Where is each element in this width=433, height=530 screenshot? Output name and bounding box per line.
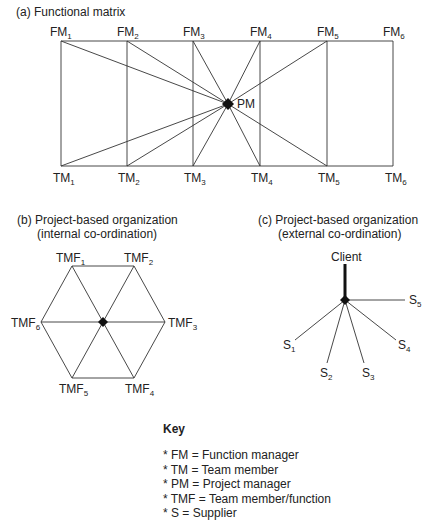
key-item-s: * S = Supplier	[163, 506, 331, 521]
tmf2-label: TMF2	[124, 251, 153, 270]
tm3-label: TM3	[184, 171, 206, 190]
fm3-label: FM3	[183, 25, 205, 44]
panel-b-title-line2: (internal co-ordination)	[37, 227, 157, 241]
s3-label: S3	[362, 366, 374, 385]
client-hub-icon	[340, 295, 350, 305]
s4-label: S4	[398, 338, 410, 357]
panel-c-title-line2: (external co-ordination)	[278, 227, 401, 241]
fm2-label: FM2	[117, 25, 139, 44]
key-list: * FM = Function manager * TM = Team memb…	[163, 448, 331, 521]
fm1-label: FM1	[50, 25, 72, 44]
key-item-tmf: * TMF = Team member/function	[163, 492, 331, 507]
key-item-tm: * TM = Team member	[163, 463, 331, 478]
hexagon-center-icon	[98, 317, 108, 327]
tm6-label: TM6	[385, 171, 407, 190]
tm1-label: TM1	[53, 171, 75, 190]
tmf3-label: TMF3	[168, 316, 197, 335]
s1-label: S1	[283, 338, 295, 357]
tmf1-label: TMF1	[56, 251, 85, 270]
panel-a-title: (a) Functional matrix	[16, 5, 125, 19]
pm-node-icon	[222, 98, 234, 110]
s2-label: S2	[320, 366, 332, 385]
key-item-pm: * PM = Project manager	[163, 477, 331, 492]
pm-label: PM	[237, 97, 255, 111]
panel-b-title-line1: (b) Project-based organization	[17, 213, 178, 227]
fm5-label: FM5	[317, 25, 339, 44]
fm6-label: FM6	[383, 25, 405, 44]
tm2-label: TM2	[118, 171, 140, 190]
tm4-label: TM4	[251, 171, 273, 190]
client-label: Client	[331, 250, 362, 264]
tmf5-label: TMF5	[59, 382, 88, 401]
panel-c-title-line1: (c) Project-based organization	[258, 213, 418, 227]
tmf4-label: TMF4	[125, 382, 154, 401]
supplier-lines	[295, 300, 405, 363]
key-item-fm: * FM = Function manager	[163, 448, 331, 463]
tmf6-label: TMF6	[11, 316, 40, 335]
s5-label: S5	[409, 293, 421, 312]
fm4-label: FM4	[250, 25, 272, 44]
tm5-label: TM5	[318, 171, 340, 190]
key-title: Key	[163, 422, 185, 436]
